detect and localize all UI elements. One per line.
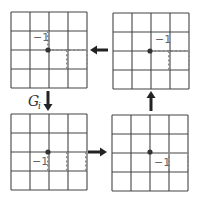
arrows-layer: Gi [28,46,156,157]
panel-top-left: −1 [11,12,87,88]
arrow-right-up-icon [147,91,156,111]
weight-label: −1 [155,33,171,46]
operator-subscript: i [38,101,41,111]
center-node [45,149,50,154]
center-node [147,48,152,53]
dotted-path [48,152,86,172]
panel-bottom-left: −1 [11,114,87,190]
grid-cycle-diagram: −1−1−1−1 Gi [0,0,201,198]
weight-label: −1 [33,31,49,44]
arrow-left-down-icon: Gi [28,91,53,111]
dotted-path [169,152,188,172]
weight-label: −1 [32,155,48,168]
panel-top-right: −1 [113,13,189,89]
arrow-top-left-icon [90,46,108,55]
panel-bottom-right: −1 [112,115,188,191]
center-node [45,47,50,52]
center-node [147,149,152,154]
arrow-bottom-right-icon [88,148,107,157]
weight-label: −1 [154,156,170,169]
